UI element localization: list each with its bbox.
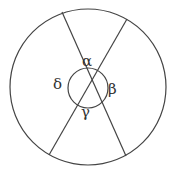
label-gamma: γ (81, 103, 90, 121)
label-delta: δ (53, 75, 62, 93)
circle-chords-diagram: α β γ δ (0, 0, 171, 170)
label-alpha: α (82, 52, 92, 70)
label-beta: β (108, 80, 117, 98)
